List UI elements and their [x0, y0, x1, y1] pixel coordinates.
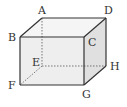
vertex-label-A: A	[37, 4, 47, 17]
vertex-label-B: B	[8, 31, 16, 44]
vertex-label-H: H	[110, 60, 120, 73]
vertex-label-F: F	[8, 79, 16, 92]
front-face	[20, 37, 84, 85]
vertex-label-D: D	[104, 4, 113, 17]
cuboid-diagram: A B C D E F G H	[0, 0, 127, 107]
vertex-label-C: C	[88, 36, 96, 49]
vertex-label-G: G	[82, 88, 91, 101]
vertex-label-E: E	[32, 56, 40, 69]
